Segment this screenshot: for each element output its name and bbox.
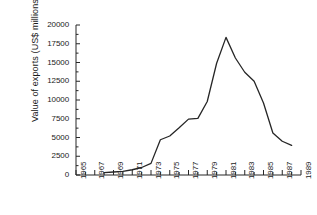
data-line-value-of-exports bbox=[104, 37, 292, 172]
axes bbox=[76, 25, 301, 175]
data-series-group bbox=[104, 37, 292, 172]
export-value-line-chart: Value of exports (US$ millions) 02500500… bbox=[0, 0, 317, 215]
plot-area bbox=[0, 0, 317, 215]
y-axis-ticks bbox=[76, 25, 80, 175]
